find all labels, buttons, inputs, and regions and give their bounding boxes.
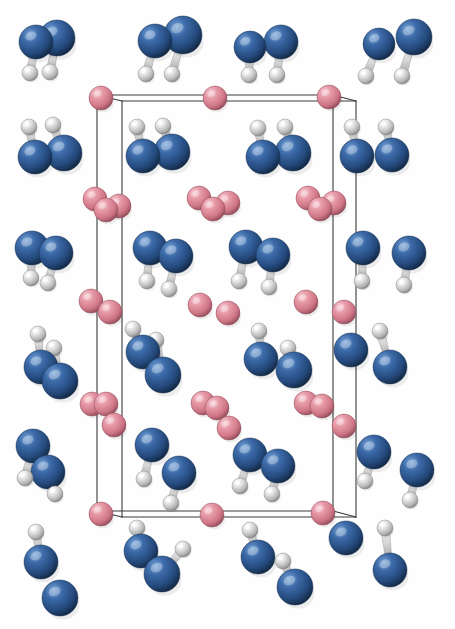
atom-sphere [308, 197, 332, 221]
structure-figure [0, 0, 455, 629]
atom-white [264, 486, 281, 504]
atom-sphere [31, 455, 65, 489]
atom-sphere [129, 119, 145, 135]
atom-sphere [203, 86, 227, 110]
atom-sphere [135, 428, 169, 462]
atom-white [251, 323, 268, 341]
atom-pink [308, 197, 333, 223]
atom-sphere [264, 25, 298, 59]
atom-blue [31, 455, 66, 492]
atom-blue [276, 352, 313, 392]
atom-sphere [161, 281, 177, 297]
atom-sphere [250, 120, 266, 136]
atom-sphere [23, 270, 39, 286]
atom-pink [98, 300, 123, 326]
atom-sphere [19, 25, 53, 59]
atom-white [377, 520, 394, 538]
atom-sphere [89, 86, 113, 110]
atom-blue [162, 456, 197, 493]
atom-blue [42, 363, 79, 403]
atom-sphere [261, 279, 277, 295]
atom-pink [332, 300, 357, 326]
atom-blue [234, 31, 267, 66]
atom-sphere [396, 277, 412, 293]
atom-sphere [251, 323, 267, 339]
atom-sphere [129, 520, 145, 536]
atom-white [231, 273, 248, 291]
atom-white [30, 326, 47, 344]
atom-sphere [39, 236, 73, 270]
atom-white [17, 470, 34, 488]
atom-sphere [234, 31, 266, 63]
atom-white [28, 524, 45, 542]
atom-pink [94, 198, 119, 224]
atom-sphere [164, 66, 180, 82]
atom-white [378, 119, 395, 137]
atom-white [394, 68, 411, 86]
atom-pink [294, 290, 319, 316]
atom-sphere [378, 119, 394, 135]
atom-blue [42, 580, 79, 620]
atom-sphere [89, 502, 113, 526]
atom-blue [277, 569, 314, 609]
atom-sphere [232, 478, 248, 494]
atom-sphere [261, 449, 295, 483]
atom-sphere [45, 117, 61, 133]
atom-sphere [357, 435, 391, 469]
structure-canvas [0, 0, 455, 629]
atom-white [139, 273, 156, 291]
atom-sphere [402, 492, 418, 508]
atom-sphere [94, 392, 118, 416]
atom-sphere [144, 556, 180, 592]
atom-sphere [256, 238, 290, 272]
atom-sphere [241, 67, 257, 83]
atom-white [22, 65, 39, 83]
atom-pink [89, 502, 114, 528]
atom-sphere [394, 68, 410, 84]
atom-sphere [344, 119, 360, 135]
atom-blue [261, 449, 296, 486]
atom-sphere [40, 275, 56, 291]
atom-white [155, 118, 172, 136]
atom-sphere [42, 64, 58, 80]
atom-sphere [275, 553, 291, 569]
atom-sphere [354, 273, 370, 289]
atom-white [396, 277, 413, 295]
atom-sphere [175, 541, 191, 557]
atom-sphere [216, 301, 240, 325]
atom-blue [340, 139, 375, 176]
atom-pink [317, 85, 342, 111]
atom-sphere [242, 522, 258, 538]
atom-sphere [139, 273, 155, 289]
atom-blue [159, 239, 194, 276]
atom-sphere [24, 545, 58, 579]
atom-sphere [21, 119, 37, 135]
atom-white [40, 275, 57, 293]
atom-pink [217, 416, 242, 442]
atom-white [372, 323, 389, 341]
atom-sphere [358, 68, 374, 84]
atom-white [250, 120, 267, 138]
atom-sphere [372, 323, 388, 339]
atom-blue [329, 521, 364, 558]
atom-blue [373, 553, 408, 590]
atom-sphere [277, 119, 293, 135]
atom-white [261, 279, 278, 297]
atom-sphere [102, 413, 126, 437]
atom-blue [24, 545, 59, 582]
atom-pink [311, 501, 336, 527]
atom-sphere [30, 326, 46, 342]
atom-blue [363, 28, 396, 63]
atom-sphere [332, 414, 356, 438]
atom-blue [275, 135, 312, 175]
atom-white [45, 117, 62, 135]
atom-blue [264, 25, 299, 62]
atom-white [277, 119, 294, 137]
atom-sphere [200, 503, 224, 527]
atom-white [47, 486, 64, 504]
atom-pink [332, 414, 357, 440]
atom-sphere [244, 342, 278, 376]
atom-sphere [188, 293, 212, 317]
atom-sphere [98, 300, 122, 324]
atom-white [232, 478, 249, 496]
